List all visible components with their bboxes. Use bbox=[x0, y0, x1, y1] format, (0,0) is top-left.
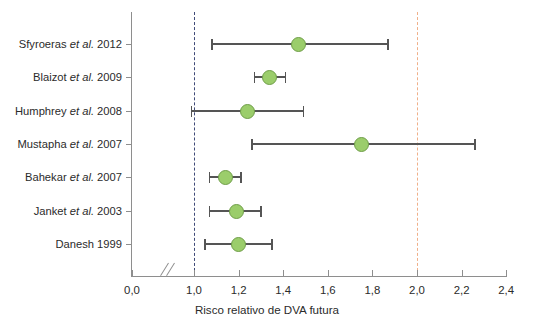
y-axis-tick bbox=[126, 144, 132, 145]
study-year: 2009 bbox=[97, 71, 122, 83]
axis-break-marker bbox=[160, 262, 178, 278]
y-axis-tick bbox=[126, 44, 132, 45]
study-name: Blaizot bbox=[33, 71, 67, 83]
study-label-column: Sfyroeras et al. 2012Blaizot et al. 2009… bbox=[0, 0, 122, 280]
study-label: Danesh 1999 bbox=[55, 238, 122, 250]
study-year: 2007 bbox=[97, 171, 122, 183]
ci-cap-lower bbox=[191, 106, 192, 117]
study-etal: et al. bbox=[70, 71, 94, 83]
study-label: Bahekar et al. 2007 bbox=[25, 171, 122, 183]
study-label: Sfyroeras et al. 2012 bbox=[19, 38, 122, 50]
ci-cap-lower bbox=[204, 239, 205, 250]
x-axis-title: Risco relativo de DVA futura bbox=[0, 303, 534, 316]
study-etal: et al. bbox=[70, 38, 94, 50]
study-year: 2008 bbox=[97, 105, 122, 117]
y-axis-tick bbox=[126, 211, 132, 212]
ci-cap-upper bbox=[260, 206, 261, 217]
x-axis-tick bbox=[372, 270, 373, 276]
x-axis-tick-label: 1,0 bbox=[186, 284, 202, 296]
study-year: 2003 bbox=[97, 205, 122, 217]
x-axis-line bbox=[131, 276, 507, 277]
study-year: 2007 bbox=[97, 138, 122, 150]
ci-cap-lower bbox=[209, 206, 210, 217]
ci-cap-lower bbox=[209, 172, 210, 183]
study-etal: et al. bbox=[70, 105, 94, 117]
y-axis-tick bbox=[126, 244, 132, 245]
study-name: Janket bbox=[34, 205, 67, 217]
effect-estimate-marker bbox=[218, 170, 233, 185]
ci-cap-upper bbox=[271, 239, 272, 250]
study-label: Janket et al. 2003 bbox=[34, 205, 122, 217]
x-axis-tick-label: 1,4 bbox=[275, 284, 291, 296]
y-axis-tick bbox=[126, 111, 132, 112]
study-etal: et al. bbox=[70, 171, 94, 183]
study-name: Bahekar bbox=[25, 171, 67, 183]
ci-cap-lower bbox=[251, 139, 252, 150]
x-axis-tick bbox=[194, 270, 195, 276]
y-axis-tick bbox=[126, 177, 132, 178]
x-axis-tick-label: 2,2 bbox=[454, 284, 470, 296]
ci-cap-upper bbox=[474, 139, 475, 150]
study-label: Humphrey et al. 2008 bbox=[15, 105, 122, 117]
forest-plot: Sfyroeras et al. 2012Blaizot et al. 2009… bbox=[0, 0, 534, 327]
y-axis-tick bbox=[126, 77, 132, 78]
x-axis-tick-label: 1,8 bbox=[364, 284, 380, 296]
study-name: Danesh bbox=[55, 238, 94, 250]
effect-estimate-marker bbox=[262, 70, 277, 85]
x-axis-tick-label: 2,4 bbox=[498, 284, 514, 296]
x-axis-tick bbox=[132, 270, 133, 276]
x-axis-tick-label: 2,0 bbox=[409, 284, 425, 296]
ci-cap-upper bbox=[303, 106, 304, 117]
effect-estimate-marker bbox=[291, 37, 306, 52]
x-axis-tick bbox=[506, 270, 507, 276]
study-etal: et al. bbox=[70, 138, 94, 150]
ci-cap-upper bbox=[387, 39, 388, 50]
study-name: Mustapha bbox=[17, 138, 66, 150]
effect-estimate-marker bbox=[354, 137, 369, 152]
study-label: Mustapha et al. 2007 bbox=[17, 138, 122, 150]
study-etal: et al. bbox=[70, 205, 94, 217]
x-axis-tick-label: 1,2 bbox=[231, 284, 247, 296]
ci-cap-upper bbox=[240, 172, 241, 183]
effect-estimate-marker bbox=[229, 204, 244, 219]
study-year: 2012 bbox=[97, 38, 122, 50]
ci-cap-lower bbox=[254, 72, 255, 83]
ci-cap-upper bbox=[285, 72, 286, 83]
x-axis-tick-label: 0,0 bbox=[124, 284, 140, 296]
x-axis-tick bbox=[417, 270, 418, 276]
study-year: 1999 bbox=[97, 238, 122, 250]
effect-estimate-marker bbox=[240, 104, 255, 119]
x-axis-tick-label: 1,6 bbox=[320, 284, 336, 296]
study-name: Humphrey bbox=[15, 105, 67, 117]
study-name: Sfyroeras bbox=[19, 38, 67, 50]
reference-line-null-effect bbox=[194, 12, 195, 276]
effect-estimate-marker bbox=[231, 237, 246, 252]
x-axis-tick bbox=[462, 270, 463, 276]
ci-cap-lower bbox=[211, 39, 212, 50]
x-axis-tick bbox=[239, 270, 240, 276]
x-axis-tick bbox=[328, 270, 329, 276]
study-label: Blaizot et al. 2009 bbox=[33, 71, 122, 83]
x-axis-tick bbox=[283, 270, 284, 276]
